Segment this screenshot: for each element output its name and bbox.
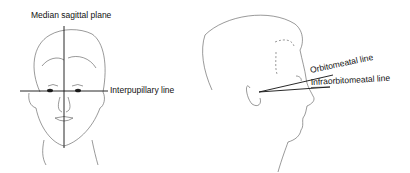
diagram-canvas <box>0 0 410 173</box>
median-sagittal-plane-label: Median sagittal plane <box>31 11 111 20</box>
lateral-head-illustration <box>203 15 314 172</box>
frontal-face-illustration <box>29 30 105 165</box>
interpupillary-line-label: Interpupillary line <box>110 86 174 95</box>
